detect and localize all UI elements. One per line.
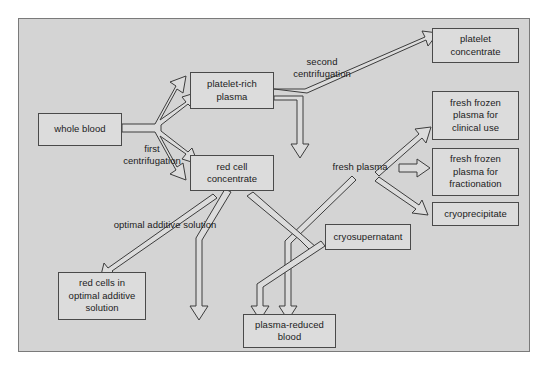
node-whole-blood-label: whole blood (42, 123, 118, 136)
node-plasma-reduced-blood-label: plasma-reduced blood (247, 319, 332, 344)
node-platelet-rich-plasma: platelet-rich plasma (190, 72, 274, 109)
node-cryoprecipitate: cryoprecipitate (432, 202, 519, 226)
label-first-centrifugation: first centrifugation (110, 142, 194, 168)
node-fresh-frozen-plasma-clinical-use-label: fresh frozen plasma for clinical use (436, 97, 515, 135)
node-fresh-frozen-plasma-fractionation-label: fresh frozen plasma for fractionation (436, 153, 515, 191)
label-second-centrifugation-text: second centrifugation (280, 56, 364, 81)
node-red-cells-in-optimal-additive-solution-label: red cells in optimal additive solution (62, 277, 142, 315)
node-fresh-frozen-plasma-fractionation: fresh frozen plasma for fractionation (432, 148, 519, 196)
node-platelet-concentrate-label: platelet concentrate (436, 33, 515, 58)
node-plasma-reduced-blood: plasma-reduced blood (243, 314, 336, 348)
node-platelet-rich-plasma-label: platelet-rich plasma (194, 78, 270, 103)
node-red-cell-concentrate-label: red cell concentrate (194, 161, 270, 186)
label-fresh-plasma: fresh plasma (322, 159, 398, 175)
label-fresh-plasma-text: fresh plasma (322, 161, 398, 174)
node-cryoprecipitate-label: cryoprecipitate (436, 208, 515, 221)
node-cryosupernatant: cryosupernatant (325, 224, 411, 250)
label-first-centrifugation-text: first centrifugation (110, 143, 194, 168)
flowchart-figure: whole blood platelet-rich plasma red cel… (0, 0, 548, 370)
label-optimal-additive-solution: optimal additive solution (100, 218, 230, 232)
node-cryosupernatant-label: cryosupernatant (329, 231, 407, 244)
node-fresh-frozen-plasma-clinical-use: fresh frozen plasma for clinical use (432, 91, 519, 140)
node-red-cell-concentrate: red cell concentrate (190, 155, 274, 191)
node-red-cells-in-optimal-additive-solution: red cells in optimal additive solution (58, 272, 146, 320)
label-second-centrifugation: second centrifugation (280, 55, 364, 81)
label-optimal-additive-solution-text: optimal additive solution (100, 219, 230, 232)
node-platelet-concentrate: platelet concentrate (432, 28, 519, 63)
